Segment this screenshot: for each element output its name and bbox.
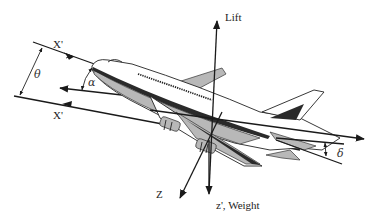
far-stabilizer <box>266 150 300 160</box>
x-prime-upper-label: X' <box>53 38 63 50</box>
weight-label: z', Weight <box>216 199 260 211</box>
alpha-label: α <box>88 76 96 89</box>
delta-label: δ <box>337 147 344 160</box>
theta-label: θ <box>34 68 41 81</box>
lift-label: Lift <box>225 11 242 23</box>
aircraft-axes-diagram: θ α <box>0 0 380 220</box>
diagram-canvas: θ α <box>0 0 380 220</box>
z-label: Z <box>156 188 163 200</box>
x-prime-lower-label: X' <box>53 109 63 121</box>
